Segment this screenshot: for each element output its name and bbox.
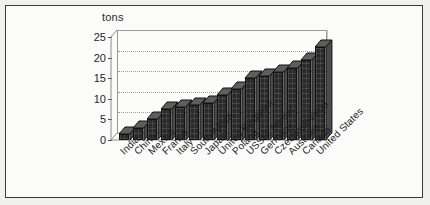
chart-page: tons 2520151050 IndiaChinaMexicoFranceIt… xyxy=(0,0,430,205)
x-axis-category-labels: IndiaChinaMexicoFranceItalySouth AfricaJ… xyxy=(6,6,424,199)
bar-chart: tons 2520151050 IndiaChinaMexicoFranceIt… xyxy=(6,6,424,199)
chart-frame: tons 2520151050 IndiaChinaMexicoFranceIt… xyxy=(5,5,423,198)
